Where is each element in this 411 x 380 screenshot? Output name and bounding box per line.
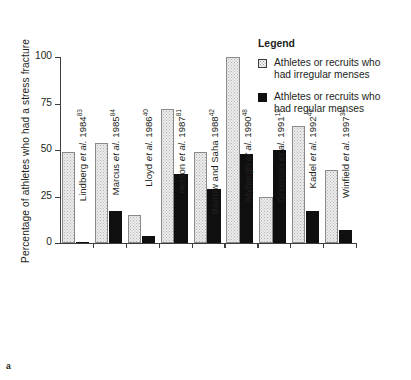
x-axis-category-label: Nelson et al. 198781 [175, 109, 189, 249]
y-axis-tick: 75 [55, 104, 60, 105]
y-axis-title: Percentage of athletes who had a stress … [17, 21, 35, 281]
panel-letter: a [6, 361, 11, 371]
x-axis-category-label: Myburgh et al. 199048 [241, 109, 255, 249]
x-axis-category-label: Winfield et al. 199738 [339, 109, 353, 249]
x-axis-tick [192, 243, 193, 248]
legend-swatch-regular-icon [258, 93, 267, 102]
legend-swatch-irregular-icon [258, 59, 267, 68]
y-axis-tick-label: 100 [35, 50, 52, 61]
bar-irregular-menses [194, 152, 207, 243]
y-axis-tick: 50 [55, 150, 60, 151]
x-axis-tick [159, 243, 160, 248]
x-axis-category-label: Grimston et al. 199119 [274, 109, 288, 249]
legend-entry-label: Athletes or recruits whohad regular mens… [274, 91, 380, 116]
y-axis-tick-label: 50 [41, 143, 52, 154]
bar-irregular-menses [161, 109, 174, 243]
y-axis-tick: 0 [55, 243, 60, 244]
legend-entry: Athletes or recruits whohad regular mens… [258, 91, 408, 116]
x-axis-category-label: Marcus et al. 198584 [109, 109, 123, 249]
bar-irregular-menses [325, 170, 338, 243]
x-axis-tick [257, 243, 258, 248]
bar-irregular-menses [95, 143, 108, 243]
legend-title: Legend [258, 38, 408, 49]
y-axis-tick-label: 75 [41, 97, 52, 108]
bar-irregular-menses [128, 215, 141, 243]
x-axis-tick [126, 243, 127, 248]
bar-irregular-menses [62, 152, 75, 243]
legend-entry-label: Athletes or recruits whohad irregular me… [274, 57, 380, 82]
y-axis-tick-label: 25 [41, 190, 52, 201]
x-axis-tick [93, 243, 94, 248]
x-axis-category-label: Barrow and Saha 198842 [208, 109, 222, 249]
x-axis-tick [224, 243, 225, 248]
x-axis-category-label: Kadel et al. 199243 [306, 109, 320, 249]
legend: Legend Athletes or recruits whohad irreg… [258, 38, 408, 125]
x-axis-tick [323, 243, 324, 248]
legend-entries: Athletes or recruits whohad irregular me… [258, 57, 408, 116]
bar-irregular-menses [259, 197, 272, 244]
y-axis-tick: 25 [55, 197, 60, 198]
stress-fracture-bar-chart: Percentage of athletes who had a stress … [0, 0, 411, 380]
bar-irregular-menses [292, 126, 305, 243]
x-axis-tick [290, 243, 291, 248]
y-axis-tick: 100 [55, 57, 60, 58]
x-axis-category-label: Lloyd et al. 198640 [142, 109, 156, 249]
x-axis-tick [356, 243, 357, 248]
y-axis-tick-label: 0 [46, 236, 52, 247]
x-axis-category-label: Lindberg et al. 198483 [76, 109, 90, 249]
bar-irregular-menses [226, 57, 239, 243]
legend-entry: Athletes or recruits whohad irregular me… [258, 57, 408, 82]
